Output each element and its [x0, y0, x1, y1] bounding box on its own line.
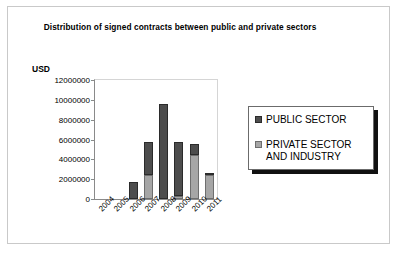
bar-2010: [190, 144, 199, 199]
y-tick-mark: [91, 140, 94, 141]
bar-segment-public: [174, 142, 183, 196]
bar-2009: [174, 142, 183, 199]
bar-slot: [187, 80, 202, 199]
bar-2008: [159, 104, 168, 199]
bar-2011: [205, 173, 214, 199]
bar-segment-private: [190, 155, 199, 199]
bar-slot: [156, 80, 171, 199]
y-tick-mark: [91, 100, 94, 101]
legend-label-private: PRIVATE SECTOR AND INDUSTRY: [266, 139, 352, 162]
y-axis-label: USD: [32, 64, 50, 74]
bar-slot: [141, 80, 156, 199]
legend-swatch-icon-public: [255, 116, 262, 123]
bar-segment-public: [159, 104, 168, 199]
plot-area: 1200000010000000800000060000004000000200…: [94, 79, 218, 200]
legend-swatch-icon-private: [255, 141, 262, 148]
y-tick-label: 2000000: [59, 175, 90, 184]
bar-slot: [110, 80, 125, 199]
bar-2007: [144, 142, 153, 199]
bar-group: [95, 80, 217, 199]
bar-slot: [171, 80, 186, 199]
x-axis-labels: 20042005200620072008200920102011: [94, 203, 218, 243]
y-tick-label: 12000000: [54, 76, 90, 85]
legend-item-public-sector: PUBLIC SECTOR: [255, 114, 346, 126]
legend-label-public: PUBLIC SECTOR: [266, 114, 346, 126]
y-tick-mark: [91, 179, 94, 180]
bar-slot: [202, 80, 217, 199]
y-tick-label: 4000000: [59, 155, 90, 164]
bar-segment-private: [205, 175, 214, 199]
bar-slot: [126, 80, 141, 199]
bar-segment-public: [144, 142, 153, 175]
chart-figure: Distribution of signed contracts between…: [7, 6, 390, 244]
y-tick-label: 10000000: [54, 95, 90, 104]
bar-slot: [95, 80, 110, 199]
chart-title: Distribution of signed contracts between…: [30, 21, 330, 34]
y-tick-mark: [91, 80, 94, 81]
chart-legend: PUBLIC SECTOR PRIVATE SECTOR AND INDUSTR…: [248, 106, 374, 170]
legend-item-private-sector: PRIVATE SECTOR AND INDUSTRY: [255, 139, 352, 162]
y-tick-mark: [91, 199, 94, 200]
bar-2006: [129, 182, 138, 199]
bar-segment-public: [129, 182, 138, 199]
y-tick-label: 8000000: [59, 115, 90, 124]
bar-segment-private: [144, 175, 153, 199]
bar-segment-public: [190, 144, 199, 155]
y-tick-label: 6000000: [59, 135, 90, 144]
y-tick-mark: [91, 159, 94, 160]
y-tick-label: 0: [86, 195, 90, 204]
y-tick-mark: [91, 120, 94, 121]
